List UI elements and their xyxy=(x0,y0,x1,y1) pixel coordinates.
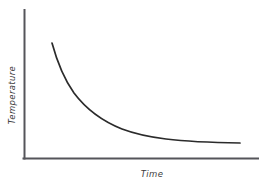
chart-container: Temperature Time xyxy=(0,0,272,186)
decay-chart: Temperature Time xyxy=(0,0,272,186)
y-axis-label: Temperature xyxy=(7,66,17,124)
x-axis-label: Time xyxy=(141,169,163,179)
